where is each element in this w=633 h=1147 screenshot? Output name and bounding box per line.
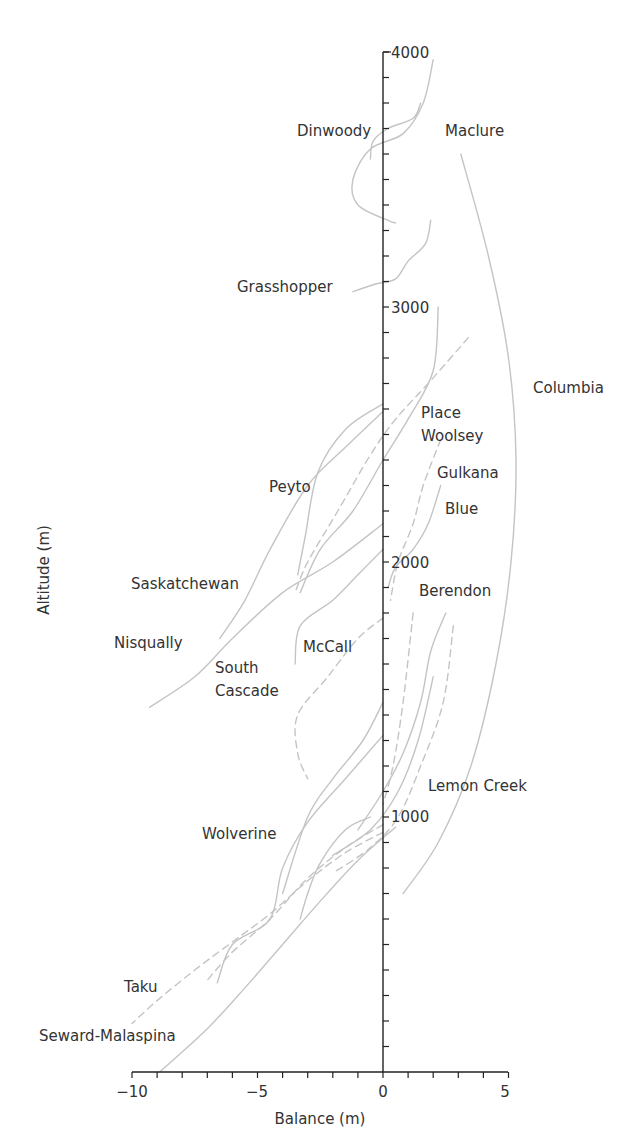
label-south-cascade-line2: Cascade bbox=[215, 682, 279, 700]
label-grasshopper: Grasshopper bbox=[237, 278, 334, 296]
curve-gulkana bbox=[391, 440, 441, 601]
label-columbia: Columbia bbox=[533, 379, 604, 397]
label-berendon: Berendon bbox=[419, 582, 491, 600]
label-place: Place bbox=[421, 404, 461, 422]
curve-seward-malaspina bbox=[207, 825, 383, 981]
label-dinwoody: Dinwoody bbox=[297, 122, 371, 140]
y-axis-title: Altitude (m) bbox=[35, 525, 53, 615]
y-tick-label-3000: 3000 bbox=[391, 299, 429, 317]
y-minor-ticks bbox=[383, 52, 389, 1047]
x-axis: −10 −5 0 5 Balance (m) bbox=[116, 1072, 510, 1128]
curve-grasshopper bbox=[353, 220, 431, 291]
curve-lemon-creek-b bbox=[383, 613, 413, 804]
x-tick-label-neg10: −10 bbox=[116, 1083, 148, 1101]
curve-berendon bbox=[358, 613, 446, 830]
curve-wolverine-c bbox=[300, 817, 370, 919]
label-saskatchewan: Saskatchewan bbox=[131, 575, 239, 593]
label-seward-malaspina: Seward-Malaspina bbox=[39, 1027, 176, 1045]
curve-taku bbox=[132, 832, 383, 1023]
x-minor-ticks bbox=[132, 1072, 509, 1078]
label-woolsey: Woolsey bbox=[421, 427, 484, 445]
label-maclure: Maclure bbox=[445, 122, 504, 140]
curve-nisqually bbox=[150, 524, 383, 708]
y-tick-label-4000: 4000 bbox=[391, 44, 429, 62]
label-mccall: McCall bbox=[303, 638, 352, 656]
x-axis-title: Balance (m) bbox=[275, 1110, 366, 1128]
curve-wolverine bbox=[217, 735, 383, 982]
label-taku: Taku bbox=[123, 978, 158, 996]
label-south-cascade-line1: South bbox=[215, 659, 259, 677]
curve-maclure bbox=[370, 103, 420, 159]
x-tick-label-0: 0 bbox=[378, 1083, 388, 1101]
curve-seward-malaspina-solid bbox=[160, 827, 396, 1072]
curve-lemon-creek bbox=[333, 626, 454, 873]
curve-dinwoody bbox=[352, 60, 433, 223]
label-wolverine: Wolverine bbox=[202, 825, 276, 843]
label-lemon-creek: Lemon Creek bbox=[428, 777, 527, 795]
label-gulkana: Gulkana bbox=[437, 464, 499, 482]
x-tick-label-5: 5 bbox=[500, 1083, 510, 1101]
curve-blue bbox=[388, 486, 441, 588]
balance-curves bbox=[132, 60, 516, 1072]
y-tick-label-2000: 2000 bbox=[391, 554, 429, 572]
label-blue: Blue bbox=[445, 500, 478, 518]
glacier-balance-chart: 4000 3000 2000 1000 −10 −5 0 5 Balance (… bbox=[0, 0, 633, 1147]
y-axis: 4000 3000 2000 1000 bbox=[383, 44, 429, 1072]
curve-place bbox=[300, 307, 438, 593]
curve-saskatchewan bbox=[220, 412, 383, 639]
glacier-labels: Dinwoody Maclure Grasshopper Columbia Pl… bbox=[39, 122, 604, 1045]
label-peyto: Peyto bbox=[269, 478, 311, 496]
label-nisqually: Nisqually bbox=[114, 634, 183, 652]
y-tick-label-1000: 1000 bbox=[391, 808, 429, 826]
x-tick-label-neg5: −5 bbox=[246, 1083, 268, 1101]
curve-wolverine-b bbox=[283, 702, 383, 893]
